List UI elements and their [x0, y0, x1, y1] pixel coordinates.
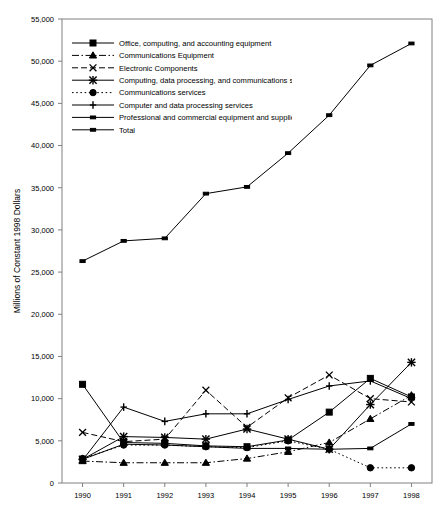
- x-tick-label: 1998: [403, 491, 420, 500]
- y-tick-label: 10,000: [31, 394, 54, 403]
- legend-label: Computing, data processing, and communic…: [119, 76, 318, 85]
- y-axis-label: Millions of Constant 1998 Dollars: [12, 189, 22, 313]
- y-tick-label: 55,000: [31, 15, 54, 24]
- legend-label: Electronic Components: [119, 64, 198, 73]
- legend-label: Office, computing, and accounting equipm…: [119, 39, 272, 48]
- y-tick-label: 30,000: [31, 226, 54, 235]
- data-point-marker: [90, 116, 95, 119]
- x-tick-label: 1994: [239, 491, 256, 500]
- y-tick-label: 15,000: [31, 352, 54, 361]
- data-point-marker: [162, 444, 167, 447]
- data-point-marker: [80, 381, 86, 387]
- legend-label: Computer and data processing services: [119, 101, 253, 110]
- data-point-marker: [285, 438, 291, 444]
- x-tick-label: 1997: [362, 491, 379, 500]
- data-point-marker: [202, 435, 210, 443]
- y-tick-label: 5,000: [35, 437, 54, 446]
- y-axis-title: Millions of Constant 1998 Dollars: [12, 189, 22, 313]
- data-point-marker: [80, 260, 85, 263]
- data-point-marker: [326, 409, 332, 415]
- y-tick-label: 45,000: [31, 99, 54, 108]
- data-point-marker: [121, 443, 126, 446]
- data-point-marker: [161, 433, 169, 441]
- y-tick-label: 20,000: [31, 310, 54, 319]
- y-tick-label: 25,000: [31, 268, 54, 277]
- data-point-marker: [121, 239, 126, 242]
- x-tick-label: 1990: [74, 491, 91, 500]
- data-point-marker: [367, 465, 373, 471]
- chart-container: Millions of Constant 1998 Dollars 05,000…: [0, 0, 442, 518]
- data-point-marker: [407, 358, 415, 366]
- legend-item-4[interactable]: Communications services: [72, 88, 206, 97]
- x-tick-label: 1992: [156, 491, 173, 500]
- data-point-marker: [368, 64, 373, 67]
- data-point-marker: [408, 465, 414, 471]
- data-point-marker: [244, 185, 249, 188]
- x-tick-label: 1991: [115, 491, 132, 500]
- data-point-marker: [203, 445, 208, 448]
- line-chart: Millions of Constant 1998 Dollars 05,000…: [0, 0, 442, 518]
- data-point-marker: [244, 447, 249, 450]
- data-point-marker: [203, 192, 208, 195]
- data-point-marker: [243, 425, 251, 433]
- data-point-marker: [119, 432, 127, 440]
- data-point-marker: [286, 447, 291, 450]
- x-tick-label: 1996: [321, 491, 338, 500]
- data-point-marker: [286, 152, 291, 155]
- data-point-marker: [90, 40, 96, 46]
- y-tick-label: 0: [50, 479, 54, 488]
- y-tick-label: 50,000: [31, 57, 54, 66]
- data-point-marker: [409, 42, 414, 45]
- y-tick-label: 40,000: [31, 141, 54, 150]
- legend-label: Professional and commercial equipment an…: [119, 113, 299, 122]
- x-tick-label: 1995: [280, 491, 297, 500]
- legend-label: Communications services: [119, 88, 206, 97]
- data-point-marker: [90, 128, 95, 131]
- data-point-marker: [327, 448, 332, 451]
- data-point-marker: [327, 114, 332, 117]
- data-point-marker: [80, 458, 85, 461]
- data-point-marker: [368, 447, 373, 450]
- data-point-marker: [366, 400, 374, 408]
- data-point-marker: [162, 237, 167, 240]
- x-tick-label: 1993: [198, 491, 215, 500]
- data-point-marker: [89, 76, 97, 84]
- y-tick-label: 35,000: [31, 184, 54, 193]
- legend-label: Total: [119, 126, 135, 135]
- data-point-marker: [409, 423, 414, 426]
- legend-label: Communications Equipment: [119, 51, 215, 60]
- data-point-marker: [90, 89, 96, 95]
